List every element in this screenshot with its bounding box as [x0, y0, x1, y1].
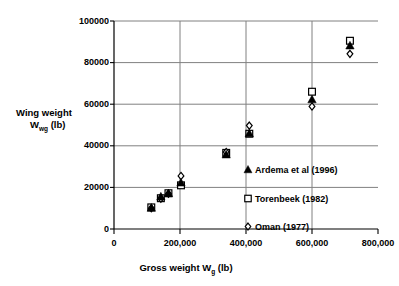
- legend-marker-ardema: [244, 166, 252, 173]
- legend-label-oman: Oman (1977): [255, 222, 309, 232]
- data-point-open-square-6: [309, 88, 316, 95]
- data-markers: [147, 37, 354, 211]
- data-point-open-diamond-5: [246, 122, 252, 129]
- legend-label-ardema: Ardema et al (1996): [255, 165, 338, 175]
- legend-item-oman[interactable]: Oman (1977): [253, 222, 309, 233]
- legend-marker-torenbeek: [245, 195, 251, 201]
- legend-item-ardema[interactable]: Ardema et al (1996): [253, 165, 338, 176]
- legend-markers: [244, 166, 252, 230]
- legend-label-torenbeek: Torenbeek (1982): [255, 194, 328, 204]
- x-axis-ticks: [114, 229, 378, 234]
- legend-item-torenbeek[interactable]: Torenbeek (1982): [253, 194, 328, 205]
- data-point-open-diamond-7: [347, 50, 353, 57]
- data-point-filled-triangle-6: [308, 95, 316, 103]
